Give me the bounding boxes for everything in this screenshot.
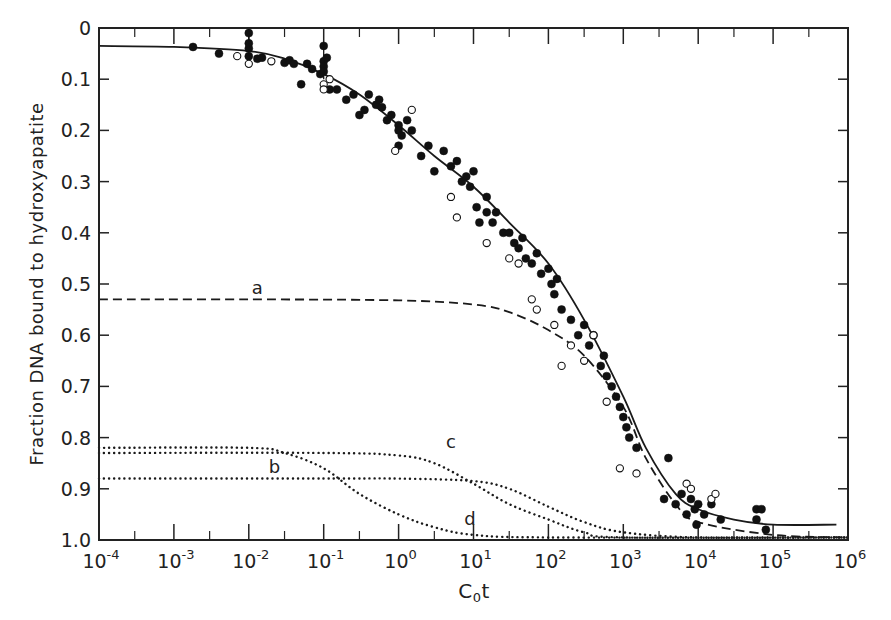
filled-data-point (597, 362, 605, 370)
filled-data-point (417, 152, 425, 160)
filled-data-point (678, 490, 686, 498)
y-tick-label: 0.4 (61, 222, 91, 244)
open-data-point (603, 398, 610, 405)
x-tick-label: 100 (384, 547, 416, 572)
filled-data-point (600, 352, 608, 360)
x-tick-label: 10-2 (232, 547, 269, 572)
open-data-point (453, 214, 460, 221)
filled-data-point (297, 80, 305, 88)
open-data-point (533, 306, 540, 313)
filled-data-point (403, 116, 411, 124)
filled-data-point (290, 60, 298, 68)
filled-data-point (603, 372, 611, 380)
filled-data-point (700, 510, 708, 518)
open-data-point (234, 53, 241, 60)
x-tick-label: 106 (834, 547, 866, 572)
curve-a (99, 299, 848, 537)
plot-frame (99, 28, 848, 540)
filled-data-point (683, 510, 691, 518)
open-data-point (506, 255, 513, 262)
filled-data-point (475, 219, 483, 227)
filled-data-point (333, 85, 341, 93)
filled-data-point (664, 454, 672, 462)
filled-data-point (544, 265, 552, 273)
y-tick-label: 0.2 (61, 119, 91, 141)
open-data-point (392, 147, 399, 154)
y-axis-tick-labels: 00.10.20.30.40.50.60.70.80.91.0 (61, 17, 91, 551)
filled-data-point (580, 321, 588, 329)
x-tick-label: 10-3 (157, 547, 194, 572)
open-data-point (408, 106, 415, 113)
x-axis-tick-labels: 10-410-310-210-1100101102103104105106 (82, 547, 866, 572)
filled-data-point (518, 234, 526, 242)
open-data-point (590, 332, 597, 339)
filled-data-point (258, 54, 266, 62)
open-data-point (483, 239, 490, 246)
y-tick-label: 0.3 (61, 171, 91, 193)
filled-data-point (483, 193, 491, 201)
filled-data-point (612, 393, 620, 401)
y-tick-label: 0.7 (61, 375, 91, 397)
filled-data-point (693, 521, 701, 529)
filled-data-point (622, 423, 630, 431)
filled-data-point (365, 91, 373, 99)
filled-data-point (492, 208, 500, 216)
filled-data-point (430, 167, 438, 175)
filled-data-point (473, 203, 481, 211)
x-tick-label: 10-1 (307, 547, 344, 572)
curve-label-a: a (252, 277, 263, 298)
filled-data-point (462, 172, 470, 180)
x-tick-label: 104 (684, 547, 716, 572)
filled-data-point (632, 444, 640, 452)
filled-data-point (378, 103, 386, 111)
y-tick-label: 0.6 (61, 324, 91, 346)
open-data-point (326, 76, 333, 83)
filled-data-point (537, 270, 545, 278)
filled-data-point (440, 147, 448, 155)
filled-data-point (757, 505, 765, 513)
x-tick-label: 102 (534, 547, 566, 572)
filled-data-point (660, 495, 668, 503)
filled-data-point (550, 290, 558, 298)
filled-data-point (470, 167, 478, 175)
filled-data-point (189, 43, 197, 51)
filled-data-point (308, 65, 316, 73)
y-tick-label: 1.0 (61, 529, 91, 551)
filled-data-point (672, 500, 680, 508)
cot-curve-chart: 00.10.20.30.40.50.60.70.80.91.0 10-410-3… (0, 0, 891, 620)
y-axis-title: Fraction DNA bound to hydroxyapatite (26, 102, 47, 465)
filled-data-point (350, 91, 358, 99)
filled-data-point (694, 500, 702, 508)
open-data-point (616, 465, 623, 472)
curve-label-d: d (464, 508, 475, 529)
filled-data-point (387, 111, 395, 119)
axis-ticks (99, 28, 848, 540)
filled-data-point (558, 306, 566, 314)
filled-data-point (717, 516, 725, 524)
x-tick-label: 103 (609, 547, 641, 572)
filled-data-point (687, 495, 695, 503)
filled-data-point (567, 316, 575, 324)
filled-data-point (342, 96, 350, 104)
open-data-point (515, 260, 522, 267)
filled-data-point (619, 413, 627, 421)
open-data-point (581, 357, 588, 364)
open-data-point (551, 321, 558, 328)
filled-data-point (752, 516, 760, 524)
open-data-point (447, 193, 454, 200)
x-tick-label: 101 (459, 547, 491, 572)
filled-data-point (375, 96, 383, 104)
curve-label-b: b (269, 456, 280, 477)
curve-label-c: c (446, 431, 456, 452)
curve-total-fit (99, 46, 836, 525)
open-data-point (633, 470, 640, 477)
filled-data-point (585, 341, 593, 349)
y-tick-label: 0.9 (61, 478, 91, 500)
x-tick-label: 105 (759, 547, 791, 572)
filled-data-point (616, 403, 624, 411)
filled-data-point (408, 126, 416, 134)
filled-data-point (533, 249, 541, 257)
curve-labels: abcd (252, 277, 476, 528)
filled-data-point (483, 208, 491, 216)
filled-data-point (528, 260, 536, 268)
